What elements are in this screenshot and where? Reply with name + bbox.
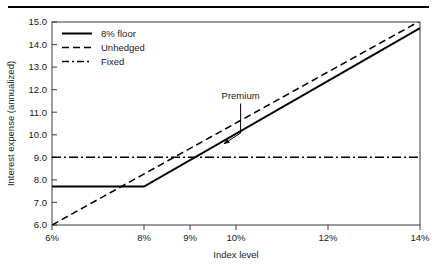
y-tick-label: 6.0: [34, 219, 47, 230]
x-tick-label: 9%: [183, 232, 197, 243]
y-axis-title: Interest expense (annualized): [5, 61, 16, 186]
chart-figure: 6.0 7.0 8.0 9.0 10.0 11.0 12.0 13.0 14.0…: [0, 0, 437, 273]
annotation-premium: Premium: [222, 90, 260, 144]
legend-label-8pct-floor: 8% floor: [101, 28, 136, 39]
y-tick-label: 8.0: [34, 174, 47, 185]
x-tick-label: 8%: [137, 232, 151, 243]
annotation-label: Premium: [222, 90, 260, 101]
y-tick-label: 14.0: [29, 39, 48, 50]
line-chart: 6.0 7.0 8.0 9.0 10.0 11.0 12.0 13.0 14.0…: [0, 0, 437, 273]
x-tick-label: 14%: [410, 232, 430, 243]
y-tick-label: 11.0: [29, 107, 47, 118]
x-axis-ticks: [52, 225, 420, 230]
y-tick-label: 15.0: [29, 16, 48, 27]
chart-legend: 8% floor Unhedged Fixed: [62, 28, 145, 67]
y-tick-label: 12.0: [29, 84, 48, 95]
legend-label-fixed: Fixed: [101, 56, 124, 67]
x-tick-labels: 6% 8% 9% 10% 12% 14%: [45, 232, 430, 243]
x-axis-title: Index level: [213, 249, 258, 260]
y-tick-label: 7.0: [34, 197, 47, 208]
y-axis-ticks: [52, 22, 57, 225]
y-tick-label: 10.0: [29, 129, 48, 140]
legend-label-unhedged: Unhedged: [101, 42, 145, 53]
x-tick-label: 12%: [318, 232, 338, 243]
x-tick-label: 6%: [45, 232, 59, 243]
y-tick-labels: 6.0 7.0 8.0 9.0 10.0 11.0 12.0 13.0 14.0…: [29, 16, 48, 230]
y-tick-label: 13.0: [29, 61, 48, 72]
y-tick-label: 9.0: [34, 152, 47, 163]
x-tick-label: 10%: [226, 232, 246, 243]
